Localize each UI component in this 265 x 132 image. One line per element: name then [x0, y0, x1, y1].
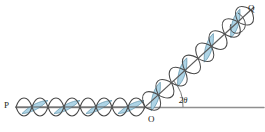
scattering-diagram-svg — [0, 0, 265, 132]
label-point-p: P — [4, 101, 9, 110]
figure-canvas: P O Q 2θ — [0, 0, 265, 132]
scattered-ray-line — [144, 7, 255, 108]
label-point-o: O — [148, 115, 155, 124]
label-point-q: Q — [248, 4, 255, 13]
label-angle-2theta: 2θ — [179, 96, 187, 105]
